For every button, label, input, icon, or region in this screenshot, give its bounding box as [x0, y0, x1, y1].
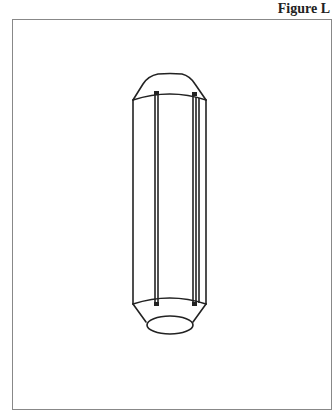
top-chamfer	[133, 74, 206, 101]
left-groove-bottom-notch	[154, 302, 159, 306]
bottom-end-face	[147, 316, 193, 334]
right-groove-bottom-notch	[192, 302, 197, 306]
left-groove-top-notch	[154, 91, 159, 95]
pin-drawing	[0, 0, 336, 416]
bottom-chamfer	[133, 304, 206, 322]
right-groove-top-notch	[192, 92, 197, 96]
